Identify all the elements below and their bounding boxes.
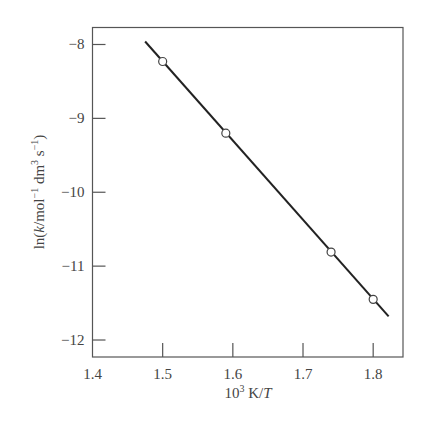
y-axis-label: ln(k/mol−1 dm3 s−1) [29, 135, 48, 250]
x-tick-label: 1.7 [294, 366, 313, 382]
x-tick-label: 1.6 [223, 366, 242, 382]
y-tick-label: −11 [62, 258, 85, 274]
y-tick-label: −9 [69, 110, 85, 126]
x-tick-label: 1.5 [153, 366, 172, 382]
plot-frame [93, 28, 404, 358]
y-tick-label: −8 [69, 36, 85, 52]
y-axis-ticks: −8−9−10−11−12 [61, 36, 105, 348]
x-axis-ticks: 1.41.51.61.71.8 [83, 343, 382, 382]
x-axis-label: 103 K/T [224, 383, 273, 401]
x-tick-label: 1.8 [364, 366, 383, 382]
data-point-marker [327, 248, 335, 256]
y-tick-label: −10 [61, 184, 84, 200]
y-tick-label: −12 [61, 332, 84, 348]
data-point-marker [222, 129, 230, 137]
fit-line [145, 42, 388, 317]
arrhenius-plot: −8−9−10−11−12 1.41.51.61.71.8 103 K/T ln… [0, 0, 425, 427]
data-point-marker [369, 295, 377, 303]
x-tick-label: 1.4 [83, 366, 102, 382]
data-point-marker [159, 57, 167, 65]
